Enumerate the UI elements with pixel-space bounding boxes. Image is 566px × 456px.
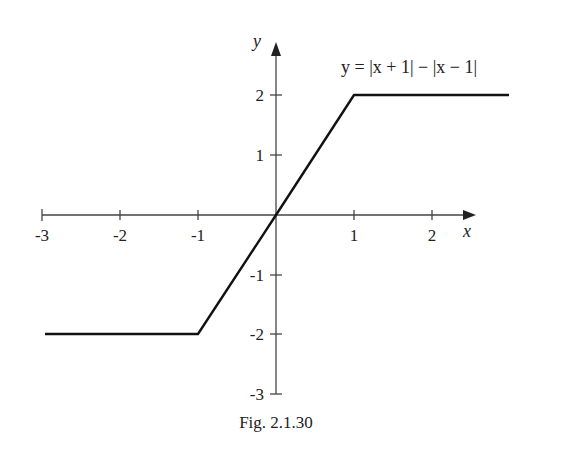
x-axis-arrow-icon [463, 210, 476, 220]
chart-canvas: -3 -2 -1 1 2 x 2 1 -1 -2 -3 y y = |x + 1… [0, 0, 566, 456]
equation-label: y = |x + 1| − |x − 1| [341, 57, 477, 77]
x-tick-label: -2 [113, 226, 127, 245]
x-tick-label: 1 [350, 226, 359, 245]
x-tick-label: -1 [191, 226, 205, 245]
y-tick-label: -2 [250, 325, 264, 344]
x-axis-label: x [462, 221, 471, 241]
y-tick-label: 1 [256, 146, 265, 165]
x-tick-label: 2 [428, 226, 437, 245]
y-tick-label: 2 [256, 86, 265, 105]
y-tick-label: -3 [250, 385, 264, 404]
x-tick-label: -3 [35, 226, 49, 245]
y-tick-label: -1 [250, 266, 264, 285]
figure-caption: Fig. 2.1.30 [239, 413, 313, 432]
y-axis [270, 55, 282, 394]
y-axis-arrow-icon [271, 42, 281, 56]
y-axis-label: y [251, 31, 261, 51]
x-axis [42, 209, 466, 221]
